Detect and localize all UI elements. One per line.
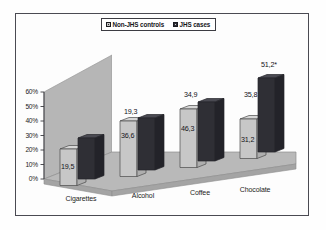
value-label-coffee-cases: 34,9 bbox=[184, 90, 197, 99]
bar-coffee-controls-front bbox=[180, 109, 197, 168]
legend-item-controls: Non-JHS controls bbox=[106, 21, 164, 28]
y-tick-label-10: 10% bbox=[16, 161, 38, 168]
value-label-coffee-controls: 46,3 bbox=[181, 124, 194, 133]
chart-legend: Non-JHS controls JHS cases bbox=[101, 18, 216, 31]
bar-cigarettes-cases-front bbox=[78, 138, 95, 179]
y-tick-label-30: 30% bbox=[16, 132, 38, 139]
y-tick-label-50: 50% bbox=[16, 103, 38, 110]
x-tick-label-alcohol: Alcohol bbox=[114, 192, 172, 199]
y-tick-label-0: 0% bbox=[16, 175, 38, 182]
value-label-alcohol-cases: 19,3 bbox=[124, 107, 137, 116]
y-tick-label-20: 20% bbox=[16, 146, 38, 153]
legend-swatch-cases-icon bbox=[173, 22, 178, 27]
value-label-alcohol-controls: 36,6 bbox=[121, 131, 134, 140]
y-tick-label-60: 60% bbox=[16, 88, 38, 95]
bar-alcohol-cases-side bbox=[155, 115, 164, 171]
bar-chocolate-cases-front bbox=[258, 78, 275, 152]
value-label-chocolate-controls: 35,8 bbox=[244, 90, 257, 99]
bar-chocolate-cases-side bbox=[275, 75, 284, 153]
bar-alcohol-controls-front bbox=[120, 121, 137, 177]
value-label-chocolate-controls-inbar: 31,2 bbox=[241, 135, 254, 144]
value-label-cigarettes-controls: 19,5 bbox=[61, 162, 74, 171]
bar-cigarettes-cases-side bbox=[95, 135, 104, 180]
legend-swatch-controls-icon bbox=[106, 22, 111, 27]
plot-area: Non-JHS controls JHS cases 60% 50% 40% 3… bbox=[16, 14, 310, 217]
legend-item-cases: JHS cases bbox=[173, 21, 210, 28]
legend-label-controls: Non-JHS controls bbox=[113, 21, 165, 28]
chart-frame: Non-JHS controls JHS cases 60% 50% 40% 3… bbox=[15, 13, 309, 216]
x-tick-label-cigarettes: Cigarettes bbox=[50, 195, 112, 202]
value-label-chocolate-cases: 51,2* bbox=[261, 60, 277, 69]
bar-coffee-cases-front bbox=[198, 102, 215, 161]
bar-alcohol-cases-front bbox=[138, 118, 155, 170]
x-tick-label-chocolate: Chocolate bbox=[224, 186, 286, 193]
chart-page: Non-JHS controls JHS cases 60% 50% 40% 3… bbox=[0, 0, 326, 230]
bar-coffee-cases-side bbox=[215, 99, 224, 162]
y-tick-label-40: 40% bbox=[16, 117, 38, 124]
x-tick-label-coffee: Coffee bbox=[174, 189, 226, 196]
legend-label-cases: JHS cases bbox=[180, 21, 211, 28]
